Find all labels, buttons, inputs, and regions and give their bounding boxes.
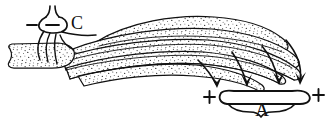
terminal-label-c: C [71, 13, 83, 33]
target-plus-right-icon [313, 89, 324, 101]
target-label-a: A [255, 99, 269, 120]
spindle-left-pole [8, 43, 74, 68]
diagram-canvas: C [0, 0, 332, 123]
figure-root: C [0, 0, 332, 123]
muscle-spindle [8, 16, 301, 91]
terminal-neck-right [55, 6, 59, 17]
target-plus-left-icon [204, 91, 215, 103]
synaptic-terminal-c [39, 6, 67, 33]
terminal-neck [46, 6, 50, 17]
